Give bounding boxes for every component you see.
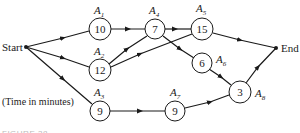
node-a8-time: 3 bbox=[237, 86, 243, 98]
label-a5: A5 bbox=[195, 2, 207, 17]
label-a8: A8 bbox=[254, 87, 266, 102]
edge-a2-a5 bbox=[111, 34, 192, 67]
label-a4: A4 bbox=[148, 4, 160, 19]
label-a2: A2 bbox=[93, 45, 105, 60]
figure-label: FIGURE 38 bbox=[2, 129, 48, 133]
node-a5-time: 15 bbox=[197, 23, 209, 35]
node-a7-time: 9 bbox=[172, 105, 178, 117]
edge-start-a2 bbox=[26, 47, 89, 67]
time-units-caption: (Time in minutes) bbox=[2, 96, 74, 108]
start-label: Start bbox=[2, 41, 23, 53]
node-a1-time: 10 bbox=[95, 23, 107, 35]
node-a2-time: 12 bbox=[95, 64, 106, 76]
start-point bbox=[24, 45, 28, 49]
label-a3: A3 bbox=[93, 86, 105, 101]
node-a6-time: 6 bbox=[199, 57, 205, 69]
label-a6: A6 bbox=[215, 53, 227, 68]
edge-a7-a8 bbox=[185, 95, 229, 108]
label-a7: A7 bbox=[169, 86, 181, 101]
label-a1: A1 bbox=[93, 4, 104, 19]
nodes bbox=[89, 18, 251, 121]
edge-a8-end bbox=[246, 48, 276, 83]
end-point bbox=[274, 46, 278, 50]
edge-a6-a8 bbox=[209, 69, 231, 85]
activity-network-diagram: Start End 10 12 9 7 15 6 9 3 A1 A2 A3 A4… bbox=[0, 0, 300, 133]
edge-start-a1 bbox=[26, 31, 89, 47]
end-label: End bbox=[281, 42, 299, 54]
node-a3-time: 9 bbox=[97, 105, 103, 117]
edge-a5-end bbox=[213, 33, 276, 48]
node-a4-time: 7 bbox=[152, 23, 158, 35]
